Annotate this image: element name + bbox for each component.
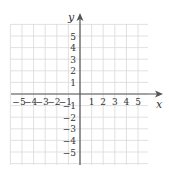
x-tick-label: 2 — [100, 97, 106, 107]
coordinate-plane: x y −5−4−3−2−112345 54321−1−2−3−4−5 — [0, 0, 169, 177]
y-tick-label: 3 — [70, 55, 76, 65]
x-tick-label: 4 — [124, 97, 130, 107]
x-axis-label: x — [156, 98, 163, 111]
x-tick-label: 3 — [112, 97, 118, 107]
y-tick-label: −3 — [63, 124, 77, 134]
x-tick-label: 5 — [135, 97, 141, 107]
y-tick-label: −1 — [63, 101, 76, 111]
y-tick-label: −4 — [63, 136, 77, 146]
y-tick-label: −5 — [63, 148, 77, 158]
y-tick-label: 4 — [70, 43, 76, 53]
y-tick-label: 2 — [70, 66, 76, 76]
y-tick-label: −2 — [63, 113, 76, 123]
y-tick-label: 1 — [70, 78, 76, 88]
y-axis-label: y — [67, 11, 75, 24]
x-tick-label: 1 — [89, 97, 95, 107]
y-tick-label: 5 — [70, 32, 76, 42]
